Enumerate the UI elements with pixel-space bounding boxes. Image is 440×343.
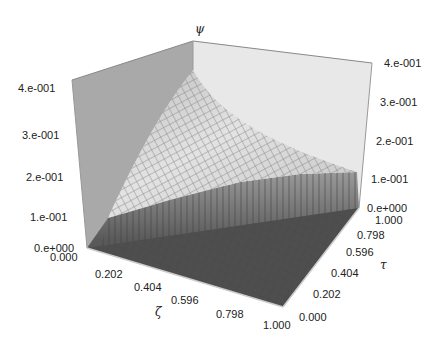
zeta-tick-1: 0.202	[95, 269, 123, 280]
z-tick-right-1: 3.e-001	[380, 97, 417, 108]
zeta-tick-3: 0.596	[171, 295, 199, 306]
z-tick-left-2: 2.e-001	[26, 172, 63, 183]
zeta-tick-4: 0.798	[216, 309, 244, 320]
tau-axis-label: τ	[380, 258, 387, 272]
zeta-tick-5: 1.000	[263, 320, 291, 331]
tau-tick-5: 0.000	[299, 312, 327, 323]
z-tick-right-4: 0.e+000	[367, 203, 407, 214]
zeta-tick-0: 0.000	[50, 252, 78, 263]
z-tick-left-1: 3.e-001	[22, 130, 59, 141]
tau-tick-0: 1.000	[375, 215, 403, 226]
tau-tick-3: 0.404	[331, 268, 359, 279]
z-tick-right-2: 2.e-001	[376, 136, 413, 147]
z-tick-left-0: 4.e-001	[18, 83, 55, 94]
psi-axis-label: ψ	[195, 22, 204, 36]
tau-tick-4: 0.202	[313, 289, 341, 300]
z-tick-right-3: 1.e-001	[371, 174, 408, 185]
z-tick-left-3: 1.e-001	[30, 212, 67, 223]
zeta-tick-2: 0.404	[134, 282, 162, 293]
tau-tick-1: 0.798	[357, 230, 385, 241]
z-tick-right-0: 4.e-001	[384, 58, 421, 69]
surface-plot	[0, 0, 440, 343]
tau-tick-2: 0.596	[346, 247, 374, 258]
zeta-axis-label: ζ	[155, 305, 162, 319]
